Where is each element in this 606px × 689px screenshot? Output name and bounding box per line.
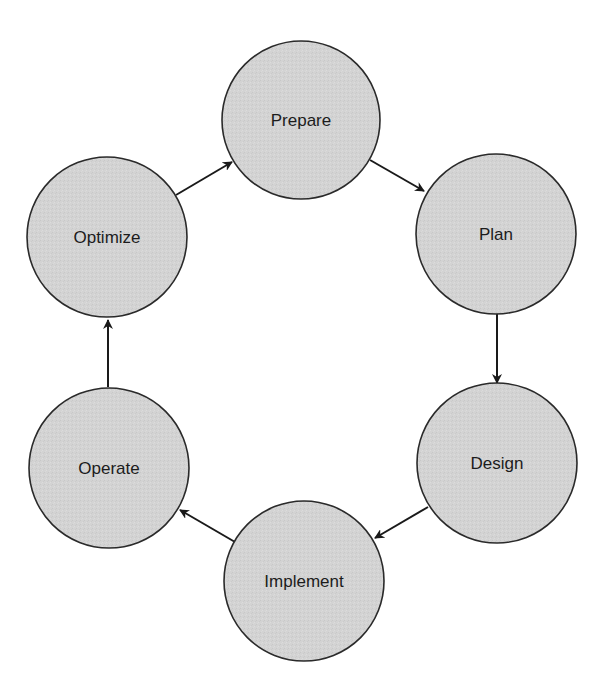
node-plan: Plan [416,154,576,314]
node-label: Plan [479,225,513,244]
node-label: Prepare [271,111,331,130]
node-optimize: Optimize [27,157,187,317]
arrow-design-to-implement [375,507,428,538]
node-operate: Operate [29,388,189,548]
node-implement: Implement [224,501,384,661]
node-label: Operate [78,459,139,478]
nodes-layer: PreparePlanDesignImplementOperateOptimiz… [27,41,577,661]
node-design: Design [417,383,577,543]
cycle-diagram: PreparePlanDesignImplementOperateOptimiz… [0,0,606,689]
arrow-implement-to-operate [180,510,235,542]
arrow-optimize-to-prepare [176,162,232,195]
node-label: Implement [264,572,344,591]
node-label: Design [471,454,524,473]
node-prepare: Prepare [222,41,380,199]
node-label: Optimize [73,228,140,247]
arrow-prepare-to-plan [370,160,424,191]
